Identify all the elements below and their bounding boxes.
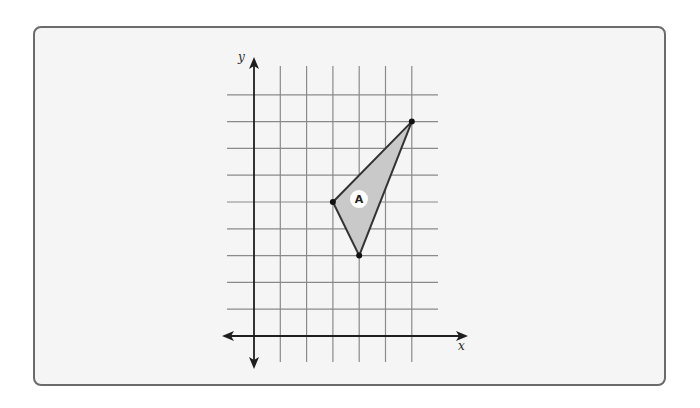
vertex-point	[330, 199, 336, 205]
vertex-point	[409, 119, 415, 125]
vertex-point	[356, 253, 362, 259]
triangle-a	[333, 122, 412, 256]
x-axis-label: x	[458, 339, 465, 353]
shape-label: A	[355, 193, 364, 206]
y-axis-label: y	[237, 50, 245, 64]
shapes: A	[330, 119, 415, 259]
coordinate-plane: x y A	[0, 0, 700, 408]
grid	[227, 66, 438, 362]
